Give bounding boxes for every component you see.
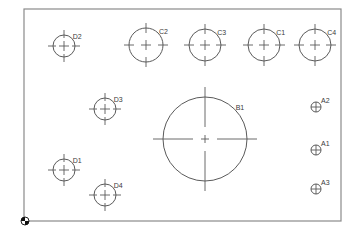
hole-label: C1 [276, 29, 285, 36]
hole-a1[interactable]: A1 [311, 140, 330, 155]
hole-d3[interactable]: D3 [89, 93, 123, 125]
hole-c4[interactable]: C4 [294, 24, 336, 66]
plate-outline [24, 9, 341, 221]
hole-layout-drawing: D2C2C3C1C4D3B1A2A1A3D1D4 [0, 0, 364, 233]
hole-label: B1 [236, 104, 245, 111]
hole-a3[interactable]: A3 [311, 179, 330, 194]
drawing-canvas: D2C2C3C1C4D3B1A2A1A3D1D4 [0, 0, 364, 233]
hole-label: A2 [321, 97, 330, 104]
hole-d4[interactable]: D4 [89, 179, 123, 211]
holes-group: D2C2C3C1C4D3B1A2A1A3D1D4 [48, 23, 336, 211]
hole-c3[interactable]: C3 [184, 24, 226, 66]
hole-label: C2 [159, 28, 168, 35]
hole-label: A3 [321, 179, 330, 186]
hole-label: D1 [73, 157, 82, 164]
hole-label: A1 [321, 140, 330, 147]
hole-d2[interactable]: D2 [48, 30, 82, 62]
hole-a2[interactable]: A2 [311, 97, 330, 112]
hole-b1[interactable]: B1 [153, 87, 257, 191]
hole-label: D4 [114, 182, 123, 189]
hole-label: D3 [114, 96, 123, 103]
hole-c1[interactable]: C1 [243, 24, 285, 66]
hole-c2[interactable]: C2 [124, 23, 168, 67]
hole-label: C4 [327, 29, 336, 36]
origin-datum-icon [21, 217, 29, 225]
hole-label: C3 [217, 29, 226, 36]
hole-label: D2 [73, 33, 82, 40]
hole-d1[interactable]: D1 [48, 154, 82, 186]
